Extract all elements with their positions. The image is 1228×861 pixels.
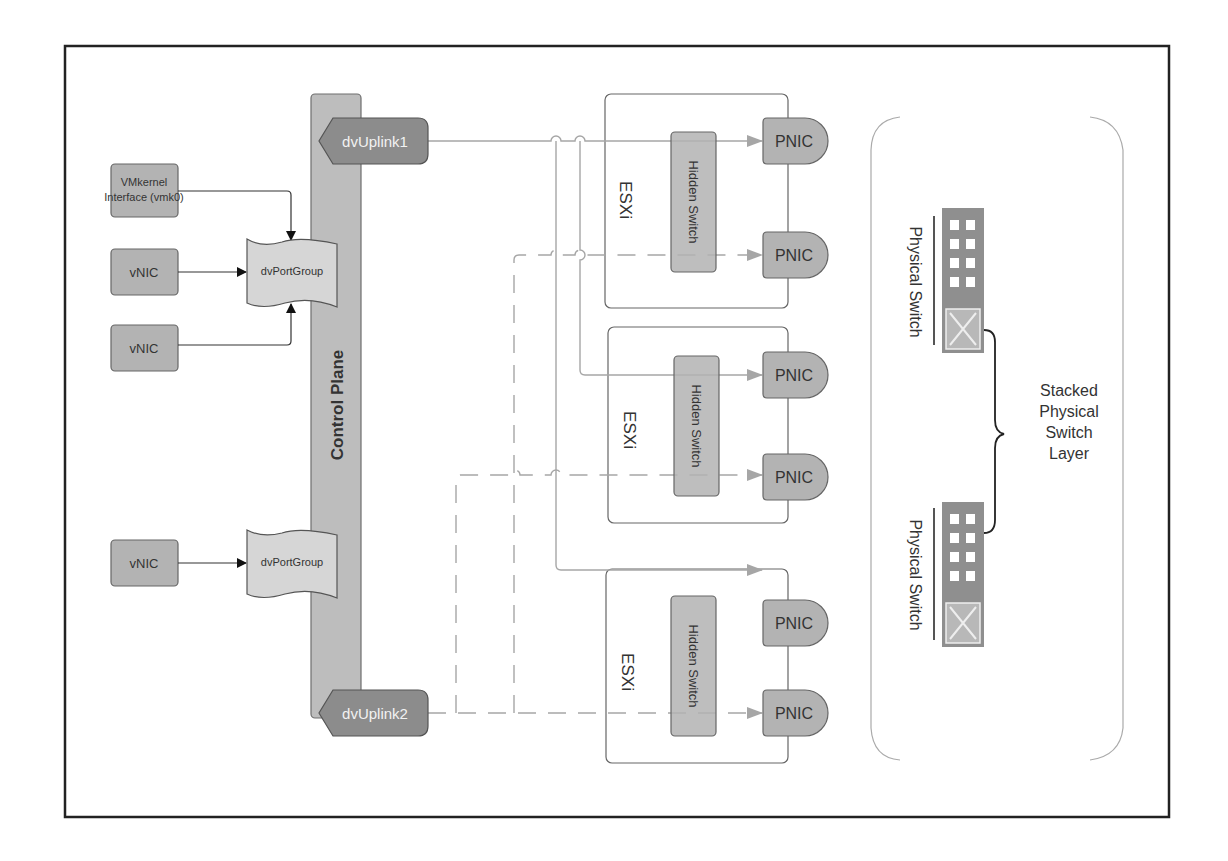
pnic-1b: PNIC — [763, 232, 828, 278]
hidden-switch-label: Hidden Switch — [686, 160, 701, 243]
svg-text:vNIC: vNIC — [130, 265, 159, 280]
esxi-label: ESXi — [616, 181, 635, 219]
hidden-switch-2: Hidden Switch — [674, 356, 719, 496]
vmkernel-box: VMkernel Interface (vmk0) — [104, 164, 183, 217]
svg-text:Physical: Physical — [1039, 403, 1099, 420]
svg-text:Interface (vmk0): Interface (vmk0) — [104, 191, 183, 203]
svg-text:VMkernel: VMkernel — [121, 176, 167, 188]
svg-text:PNIC: PNIC — [775, 247, 813, 264]
control-plane: Control Plane — [311, 94, 361, 718]
svg-text:PNIC: PNIC — [775, 705, 813, 722]
svg-text:dvUplink2: dvUplink2 — [342, 705, 408, 722]
vnic-box-2: vNIC — [111, 325, 178, 371]
dvuplink2: dvUplink2 — [319, 690, 428, 736]
physical-switch-1: Physical Switch — [907, 208, 984, 353]
svg-text:Stacked: Stacked — [1040, 382, 1098, 399]
dvportgroup-2: dvPortGroup — [247, 530, 337, 598]
svg-text:dvPortGroup: dvPortGroup — [261, 265, 323, 277]
svg-text:Physical Switch: Physical Switch — [907, 519, 924, 630]
vnic-box-1: vNIC — [111, 249, 178, 295]
hidden-switch-1: Hidden Switch — [671, 132, 716, 272]
svg-text:Physical Switch: Physical Switch — [907, 226, 924, 337]
svg-text:PNIC: PNIC — [775, 367, 813, 384]
control-plane-label: Control Plane — [328, 350, 347, 461]
vnic-box-3: vNIC — [111, 540, 178, 586]
svg-text:dvUplink1: dvUplink1 — [342, 133, 408, 150]
stack-brace — [984, 330, 1004, 533]
svg-text:vNIC: vNIC — [130, 556, 159, 571]
esxi-label: ESXi — [620, 411, 639, 449]
pnic-1a: PNIC — [763, 118, 828, 164]
svg-text:vNIC: vNIC — [130, 341, 159, 356]
pnic-3a: PNIC — [763, 600, 828, 646]
dvportgroup-1: dvPortGroup — [247, 239, 337, 307]
pnic-2a: PNIC — [763, 352, 828, 398]
svg-text:PNIC: PNIC — [775, 469, 813, 486]
esxi-label: ESXi — [618, 653, 637, 691]
hidden-switch-label: Hidden Switch — [686, 624, 701, 707]
pnic-3b: PNIC — [763, 690, 828, 736]
network-diagram: Control Plane ESXi ESXi ESXi Hidden Swit… — [0, 0, 1228, 861]
dvuplink1: dvUplink1 — [319, 118, 428, 164]
hidden-switch-label: Hidden Switch — [689, 384, 704, 467]
svg-text:PNIC: PNIC — [775, 615, 813, 632]
svg-text:Switch: Switch — [1045, 424, 1092, 441]
stack-label: Stacked Physical Switch Layer — [1039, 382, 1099, 462]
hidden-switch-3: Hidden Switch — [671, 596, 716, 736]
physical-switch-2: Physical Switch — [907, 502, 984, 647]
svg-text:Layer: Layer — [1049, 445, 1090, 462]
svg-text:PNIC: PNIC — [775, 133, 813, 150]
pnic-2b: PNIC — [763, 454, 828, 500]
svg-text:dvPortGroup: dvPortGroup — [261, 556, 323, 568]
